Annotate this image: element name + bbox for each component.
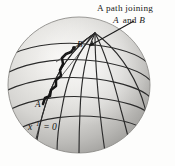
caption-italic-a: A — [112, 15, 119, 25]
point-b-label: B — [77, 39, 83, 49]
point-a-label: A — [34, 99, 41, 109]
axis-label-superscript: 1 — [36, 120, 39, 127]
axis-label-base: x — [27, 122, 33, 132]
sphere-path-diagram: A path joining A and B A B x 1 = 0 — [0, 0, 175, 166]
axis-label-value: = 0 — [43, 122, 57, 132]
caption-line-1: A path joining — [97, 3, 153, 13]
caption-italic-b: B — [139, 15, 145, 25]
caption-and-word: and — [123, 15, 140, 25]
